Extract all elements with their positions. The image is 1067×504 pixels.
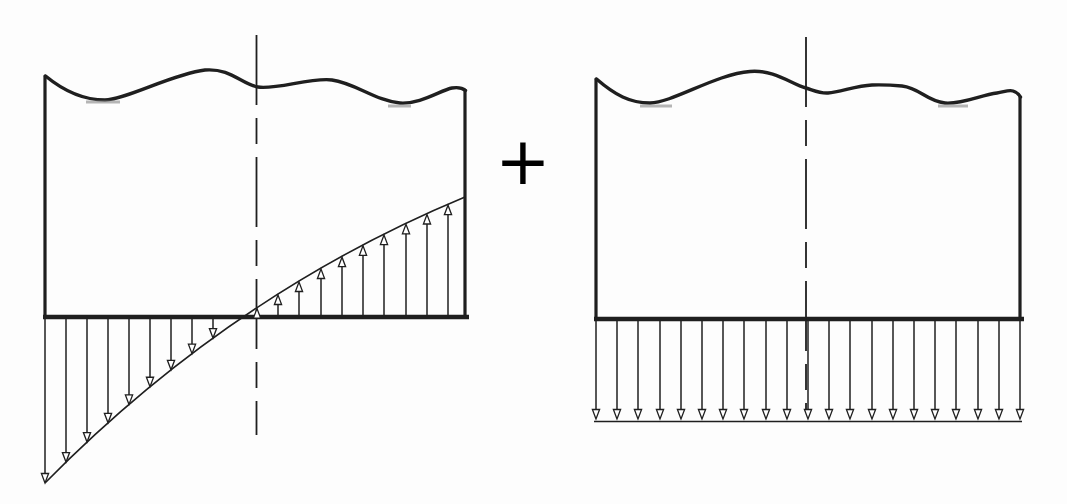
pressure-arrowhead [952,410,959,420]
left-soil-surface-wavy-edge [46,70,466,103]
pressure-arrowhead [762,410,769,420]
pressure-arrowhead [910,410,917,420]
right-soil-surface-wavy-edge [597,71,1021,103]
pressure-arrowhead [359,246,366,256]
pressure-arrowhead [613,410,620,420]
pressure-arrowhead [423,215,430,225]
pressure-arrowhead [698,410,705,420]
pressure-arrowhead [783,410,790,420]
diagram-canvas: + [0,0,1067,504]
pressure-arrowhead [974,410,981,420]
left-scan-artifacts [86,102,411,106]
pressure-arrowhead [868,410,875,420]
plus-operator: + [495,123,550,200]
pressure-arrowhead [931,410,938,420]
right-block-outline [594,79,1024,319]
left-pressure-arrows [41,205,451,483]
pressure-arrowhead [402,224,409,234]
left-diagram [41,35,469,483]
pressure-arrowhead [846,410,853,420]
pressure-arrowhead [656,410,663,420]
pressure-arrowhead [825,410,832,420]
right-pressure-arrows [592,321,1023,419]
pressure-arrowhead [444,205,451,215]
pressure-arrowhead [995,410,1002,420]
pressure-distribution-figure: + [0,0,1067,504]
pressure-arrowhead [719,410,726,420]
pressure-arrowhead [634,410,641,420]
pressure-arrowhead [889,410,896,420]
pressure-arrowhead [1016,410,1023,420]
pressure-arrowhead [804,410,811,420]
pressure-arrowhead [317,269,324,279]
pressure-arrowhead [380,235,387,245]
pressure-arrowhead [592,410,599,420]
pressure-arrowhead [338,257,345,267]
right-diagram [592,37,1024,422]
pressure-arrowhead [677,410,684,420]
pressure-arrowhead [740,410,747,420]
